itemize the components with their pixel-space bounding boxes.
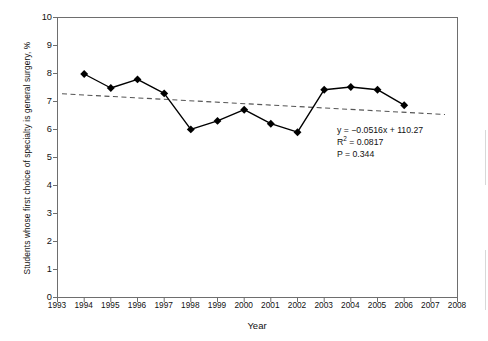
y-axis-ticks (53, 18, 58, 298)
r-squared-line: R2 = 0.0817 (337, 136, 423, 148)
page-edge-artifact (485, 250, 486, 310)
x-axis-ticks (58, 298, 458, 303)
page-edge-artifact (485, 130, 486, 185)
regression-equation: y = −0.0516x + 110.27 (337, 124, 423, 136)
r-squared-value: = 0.0817 (347, 137, 383, 147)
chart-figure: Students whose first choice of specialty… (0, 0, 488, 341)
p-value: P = 0.344 (337, 148, 423, 160)
plot-area (0, 0, 488, 341)
trendline (62, 94, 445, 115)
regression-annotation: y = −0.0516x + 110.27 R2 = 0.0817 P = 0.… (337, 124, 423, 161)
